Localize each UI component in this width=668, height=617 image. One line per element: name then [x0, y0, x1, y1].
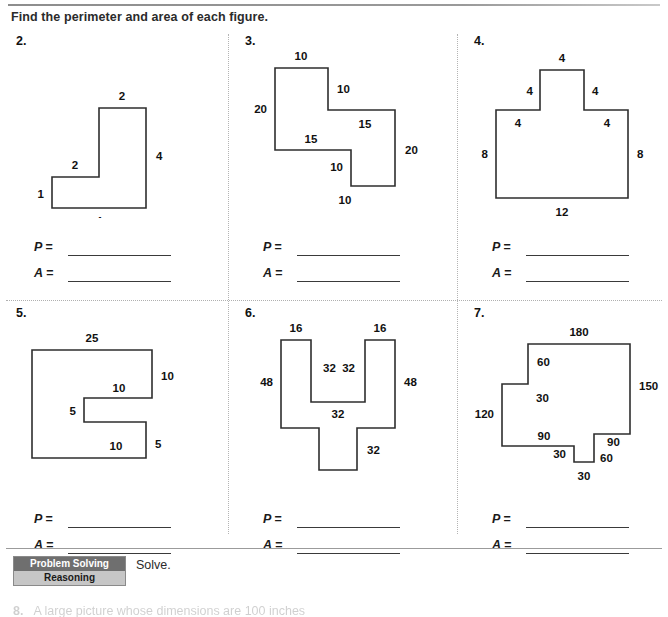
area-answer-blank[interactable]	[297, 539, 400, 554]
side-length-label: 30	[536, 392, 549, 404]
side-length-label: 5	[70, 405, 77, 417]
side-length-label: 4	[559, 52, 566, 64]
side-length-label: 10	[339, 194, 352, 206]
area-answer-blank[interactable]	[68, 539, 171, 554]
area-answer-blank[interactable]	[526, 267, 629, 282]
perimeter-answer-blank[interactable]	[297, 513, 400, 528]
side-length-label: 30	[578, 470, 591, 482]
area-answer-row: A =	[34, 528, 219, 554]
problems-grid: 2.24214P =A =3.1010152010101520P =A =4.4…	[0, 30, 668, 540]
side-length-label: 48	[404, 376, 417, 388]
bottom-divider-rule	[6, 548, 662, 549]
area-answer-blank[interactable]	[526, 539, 629, 554]
perimeter-answer-row: P =	[263, 230, 448, 256]
perimeter-answer-label: P =	[263, 241, 293, 257]
side-length-label: 20	[405, 144, 418, 156]
badge-label-problem-solving: Problem Solving	[14, 557, 125, 571]
area-answer-label: A =	[34, 267, 64, 283]
side-length-label: 10	[337, 83, 350, 95]
answer-block: P =A =	[263, 502, 448, 554]
figure-goblet-shape: 1616323248483232	[233, 310, 455, 490]
figure-complex-polygon: 18060150301209090306030	[462, 310, 668, 490]
perimeter-answer-label: P =	[34, 241, 64, 257]
side-length-label: 4	[604, 117, 611, 129]
side-length-label: 10	[113, 382, 126, 394]
figure-C-shape: 2510105105	[4, 310, 226, 490]
perimeter-answer-blank[interactable]	[68, 241, 171, 256]
side-length-label: 4	[515, 117, 522, 129]
side-length-label: 32	[323, 362, 336, 374]
perimeter-answer-blank[interactable]	[297, 241, 400, 256]
side-length-label: 2	[119, 90, 125, 102]
problem-cell: 3.1010152010101520P =A =	[233, 30, 455, 288]
area-answer-row: A =	[492, 528, 668, 554]
side-length-label: 10	[295, 50, 308, 62]
perimeter-answer-blank[interactable]	[526, 513, 629, 528]
side-length-label: 48	[260, 376, 273, 388]
side-length-label: 5	[155, 438, 162, 450]
side-length-label: 10	[161, 370, 174, 382]
perimeter-answer-row: P =	[263, 502, 448, 528]
side-length-label: 60	[600, 452, 613, 464]
figure-outline	[496, 70, 628, 198]
side-length-label: 4	[527, 85, 534, 97]
side-length-label: 15	[359, 118, 372, 130]
perimeter-answer-row: P =	[492, 230, 668, 256]
area-answer-row: A =	[492, 256, 668, 282]
area-answer-label: A =	[34, 539, 64, 555]
side-length-label: 20	[254, 103, 267, 115]
side-length-label: 90	[538, 430, 551, 442]
side-length-label: 4	[592, 85, 599, 97]
side-length-label: 32	[367, 444, 380, 456]
side-length-label: 120	[475, 408, 494, 420]
perimeter-answer-row: P =	[34, 230, 219, 256]
area-answer-row: A =	[263, 528, 448, 554]
side-length-label: 2	[72, 159, 78, 171]
last-problem-partial: 8.A large picture whose dimensions are 1…	[13, 604, 653, 617]
side-length-label: 25	[86, 332, 99, 344]
last-problem-text: A large picture whose dimensions are 100…	[33, 604, 305, 617]
problem-cell: 7.18060150301209090306030P =A =	[462, 302, 668, 560]
side-length-label: 60	[537, 356, 550, 368]
problem-cell: 2.24214P =A =	[4, 30, 226, 288]
perimeter-answer-row: P =	[492, 502, 668, 528]
side-length-label: 4	[96, 215, 103, 218]
side-length-label: 10	[110, 440, 123, 452]
side-length-label: 90	[607, 436, 620, 448]
side-length-label: 30	[553, 448, 566, 460]
side-length-label: 150	[639, 380, 658, 392]
solve-instruction: Solve.	[136, 558, 171, 572]
page-instruction: Find the perimeter and area of each figu…	[11, 10, 268, 24]
problem-solving-badge: Problem Solving Reasoning	[13, 556, 126, 586]
side-length-label: 1	[38, 188, 45, 200]
perimeter-answer-blank[interactable]	[526, 241, 629, 256]
perimeter-answer-blank[interactable]	[68, 513, 171, 528]
area-answer-blank[interactable]	[297, 267, 400, 282]
side-length-label: 16	[290, 322, 303, 334]
figure-Z-shape: 1010152010101520	[233, 38, 455, 218]
side-length-label: 8	[637, 148, 644, 160]
side-length-label: 4	[156, 150, 163, 162]
problem-cell: 4.444448812P =A =	[462, 30, 668, 288]
answer-block: P =A =	[492, 230, 668, 282]
perimeter-answer-label: P =	[492, 513, 522, 529]
area-answer-blank[interactable]	[68, 267, 171, 282]
area-answer-label: A =	[492, 539, 522, 555]
badge-label-reasoning: Reasoning	[14, 571, 125, 585]
figure-outline	[52, 108, 146, 208]
side-length-label: 8	[482, 148, 489, 160]
top-divider-rule	[8, 4, 660, 6]
side-length-label: 180	[569, 326, 588, 338]
perimeter-answer-row: P =	[34, 502, 219, 528]
area-answer-label: A =	[263, 267, 293, 283]
perimeter-answer-label: P =	[34, 513, 64, 529]
side-length-label: 32	[342, 362, 355, 374]
perimeter-answer-label: P =	[263, 513, 293, 529]
area-answer-row: A =	[34, 256, 219, 282]
side-length-label: 32	[332, 408, 345, 420]
last-problem-number: 8.	[13, 604, 23, 617]
side-length-label: 10	[330, 161, 343, 173]
figure-outline	[32, 350, 152, 458]
answer-block: P =A =	[34, 502, 219, 554]
figure-L-shape: 24214	[4, 38, 226, 218]
